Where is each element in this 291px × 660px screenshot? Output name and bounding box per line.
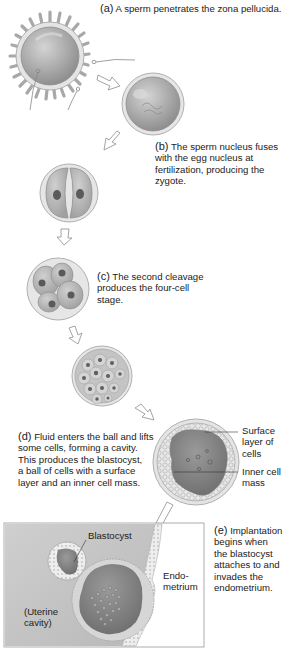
step-e-caption: (e) Implantation begins when the blastoc… xyxy=(214,525,282,593)
step-d-caption: (d) Fluid enters the ball and lifts some… xyxy=(18,431,154,488)
endometrium-label: Endo- metrium xyxy=(163,570,198,593)
two-cell-stage-illustration xyxy=(40,164,98,222)
step-c-caption: (c) The second cleavage produces the fou… xyxy=(97,271,204,305)
four-cell-stage-illustration xyxy=(27,258,89,320)
step-b-caption: (b) The sperm nucleus fuses with the egg… xyxy=(155,141,278,187)
zygote-illustration xyxy=(122,73,184,135)
blastocyst-illustration xyxy=(153,419,239,505)
blastocyst-label: Blastocyst xyxy=(88,530,132,541)
inner-cell-mass-label: Inner cell mass xyxy=(242,466,281,489)
egg-with-corona-illustration xyxy=(10,12,135,110)
uterine-cavity-label: (Uterine cavity) xyxy=(24,606,58,629)
morula-illustration xyxy=(72,346,132,406)
surface-layer-label: Surface layer of cells xyxy=(242,425,275,459)
step-a-caption: (a) A sperm penetrates the zona pellucid… xyxy=(100,3,281,14)
